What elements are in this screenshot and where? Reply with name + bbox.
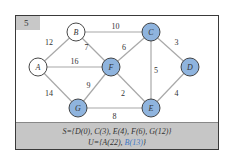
node-B: B — [67, 23, 85, 41]
edge-weight-A-B: 12 — [45, 38, 53, 47]
set-u-highlight: B(13) — [125, 138, 143, 147]
node-G: G — [69, 99, 87, 117]
edge-weight-G-E: 8 — [113, 112, 117, 121]
set-u: U={A(22), B(13)} — [16, 137, 218, 148]
node-label-G: G — [75, 104, 81, 113]
edge-weight-G-F: 9 — [87, 81, 91, 90]
edge-weight-B-F: 7 — [85, 43, 89, 52]
edge-weight-C-D: 3 — [175, 38, 179, 47]
node-C: C — [142, 23, 160, 41]
node-D: D — [181, 58, 199, 76]
node-label-D: D — [186, 63, 193, 72]
node-label-A: A — [35, 63, 41, 72]
node-label-E: E — [148, 104, 154, 113]
node-E: E — [142, 99, 160, 117]
node-label-C: C — [148, 28, 154, 37]
edge-weight-F-C: 6 — [122, 43, 126, 52]
edge-weight-B-C: 10 — [112, 22, 120, 31]
sets-panel: S={D(0), C(3), E(4), F(6), G(12)} U={A(2… — [16, 122, 218, 149]
set-s: S={D(0), C(3), E(4), F(6), G(12)} — [16, 126, 218, 137]
node-label-B: B — [74, 28, 79, 37]
edge-weight-A-F: 16 — [71, 57, 79, 66]
node-F: F — [102, 58, 120, 76]
edge-weight-A-G: 14 — [45, 89, 53, 98]
node-A: A — [29, 58, 47, 76]
edge-weight-C-E: 5 — [154, 66, 158, 75]
edge-weight-F-E: 2 — [121, 89, 125, 98]
set-u-suffix: } — [143, 138, 146, 147]
edge-weight-E-D: 4 — [175, 89, 179, 98]
node-label-F: F — [108, 63, 114, 72]
set-u-prefix: U={A(22), — [88, 138, 125, 147]
